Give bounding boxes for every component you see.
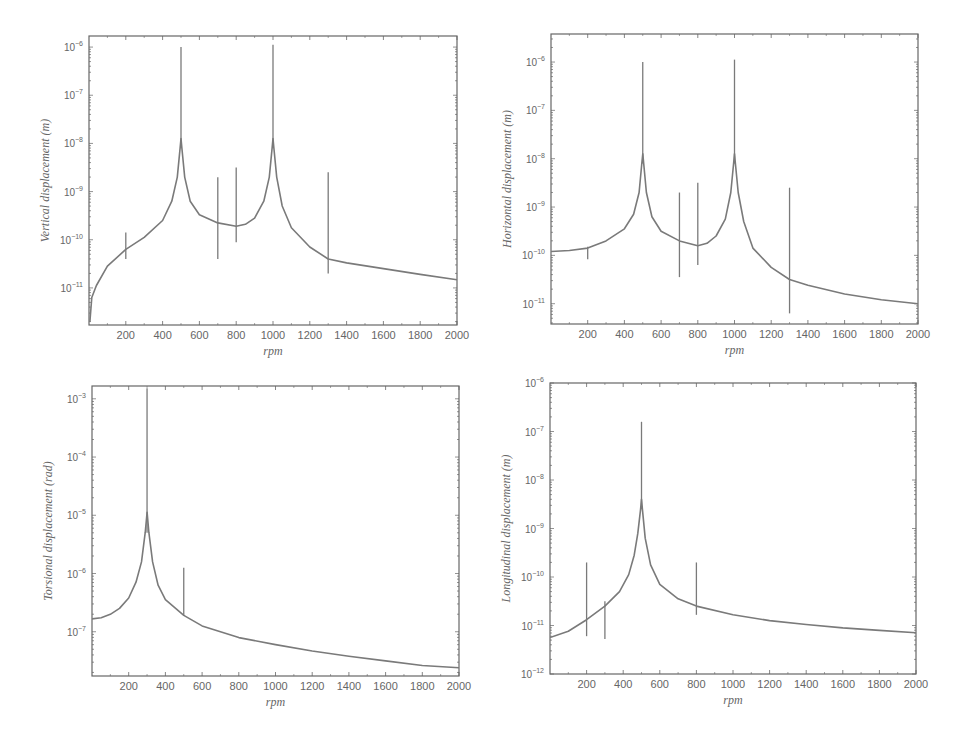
x-tick-label: 1400 <box>794 678 818 690</box>
x-tick-label: 1400 <box>337 680 361 692</box>
y-tick-label: 10−10 <box>522 248 545 261</box>
y-tick-label: 10−8 <box>525 473 544 486</box>
x-tick-label: 800 <box>227 329 245 341</box>
y-tick-label: 10−9 <box>64 185 83 198</box>
x-axis-ticks: 200400600800100012001400160018002000 <box>107 36 469 341</box>
x-tick-label: 1600 <box>373 680 397 692</box>
y-tick-label: 10−6 <box>526 55 545 68</box>
response-curve <box>92 512 459 667</box>
x-axis-label: rpm <box>266 695 286 709</box>
x-tick-label: 400 <box>615 328 633 340</box>
y-tick-label: 10−7 <box>526 103 545 116</box>
x-tick-label: 600 <box>190 329 208 341</box>
x-axis-label: rpm <box>263 344 283 358</box>
x-tick-label: 1600 <box>832 328 856 340</box>
x-tick-label: 1800 <box>869 328 893 340</box>
x-tick-label: 600 <box>652 328 670 340</box>
y-tick-label: 10−11 <box>61 281 84 294</box>
y-axis-label: Vertical displacement (m) <box>38 119 52 242</box>
y-tick-label: 10−6 <box>67 567 86 580</box>
x-tick-label: 1800 <box>410 680 434 692</box>
x-tick-label: 1600 <box>371 329 395 341</box>
x-tick-label: 600 <box>651 678 669 690</box>
x-axis-label: rpm <box>725 343 745 357</box>
y-tick-label: 10−3 <box>67 392 86 405</box>
y-axis-ticks: 10−610−710−810−910−1010−11 <box>60 40 457 322</box>
y-axis-label: Longitudinal displacement (m) <box>499 455 513 604</box>
x-tick-label: 200 <box>120 680 138 692</box>
y-tick-label: 10−10 <box>60 233 83 246</box>
x-tick-label: 800 <box>230 680 248 692</box>
x-tick-label: 1400 <box>796 328 820 340</box>
chart-horizontal: 20040060080010001200140016001800200010−6… <box>500 34 930 357</box>
x-axis-ticks: 200400600800100012001400160018002000 <box>568 383 928 690</box>
y-axis-label: Torsional displacement (rad) <box>41 461 55 601</box>
x-tick-label: 800 <box>687 678 705 690</box>
x-axis-ticks: 200400600800100012001400160018002000 <box>110 386 471 692</box>
y-tick-label: 10−10 <box>521 570 544 583</box>
x-tick-label: 2000 <box>904 678 928 690</box>
y-axis-label: Horizontal displacement (m) <box>500 110 514 249</box>
x-tick-label: 1600 <box>831 678 855 690</box>
y-tick-label: 10−8 <box>64 136 83 149</box>
x-tick-label: 1200 <box>300 680 324 692</box>
x-tick-label: 1200 <box>298 329 322 341</box>
x-tick-label: 1000 <box>722 328 746 340</box>
response-curve <box>90 139 457 322</box>
y-tick-label: 10−7 <box>67 625 86 638</box>
y-tick-label: 10−7 <box>525 425 544 438</box>
x-tick-label: 1800 <box>867 678 891 690</box>
y-axis-ticks: 10−610−710−810−910−1010−1110−12 <box>521 376 916 680</box>
x-tick-label: 1200 <box>759 328 783 340</box>
y-tick-label: 10−11 <box>523 297 546 310</box>
x-axis-ticks: 200400600800100012001400160018002000 <box>569 34 930 340</box>
chart-torsional: 20040060080010001200140016001800200010−3… <box>41 386 471 709</box>
x-tick-label: 1200 <box>757 678 781 690</box>
y-tick-label: 10−11 <box>522 619 545 632</box>
y-tick-label: 10−9 <box>525 522 544 535</box>
y-tick-label: 10−7 <box>64 88 83 101</box>
y-tick-label: 10−4 <box>67 450 86 463</box>
y-tick-label: 10−6 <box>525 376 544 389</box>
y-tick-label: 10−9 <box>526 200 545 213</box>
y-axis-ticks: 10−610−710−810−910−1010−11 <box>522 39 918 323</box>
x-tick-label: 1000 <box>263 680 287 692</box>
y-tick-label: 10−6 <box>64 40 83 53</box>
x-tick-label: 400 <box>153 329 171 341</box>
x-tick-label: 1400 <box>334 329 358 341</box>
x-tick-label: 1000 <box>261 329 285 341</box>
y-axis-ticks: 10−310−410−510−610−7 <box>67 392 459 673</box>
x-tick-label: 200 <box>577 678 595 690</box>
x-tick-label: 1800 <box>408 329 432 341</box>
x-tick-label: 200 <box>579 328 597 340</box>
y-tick-label: 10−12 <box>521 667 544 680</box>
x-tick-label: 600 <box>193 680 211 692</box>
x-tick-label: 1000 <box>721 678 745 690</box>
chart-vertical: 20040060080010001200140016001800200010−6… <box>38 36 469 358</box>
x-tick-label: 200 <box>117 329 135 341</box>
y-tick-label: 10−5 <box>67 508 86 521</box>
x-axis-label: rpm <box>723 693 743 707</box>
x-tick-label: 2000 <box>445 329 469 341</box>
x-tick-label: 800 <box>689 328 707 340</box>
x-tick-label: 400 <box>156 680 174 692</box>
x-tick-label: 400 <box>614 678 632 690</box>
response-curve <box>551 154 918 304</box>
x-tick-label: 2000 <box>447 680 471 692</box>
y-tick-label: 10−8 <box>526 152 545 165</box>
chart-longitudinal: 20040060080010001200140016001800200010−6… <box>499 376 928 707</box>
x-tick-label: 2000 <box>906 328 930 340</box>
